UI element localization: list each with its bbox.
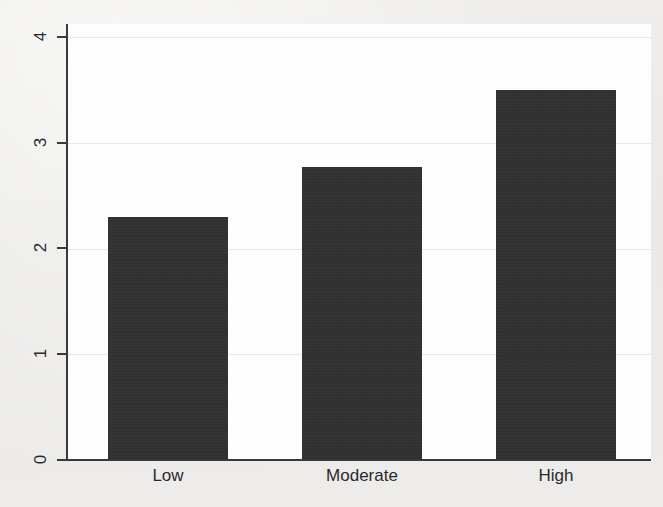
y-tick-label-2: 2 <box>32 236 49 260</box>
x-tick-label-high: High <box>496 467 616 486</box>
bar-moderate <box>302 167 422 460</box>
bar-high <box>496 90 616 460</box>
y-axis-line <box>66 24 68 461</box>
y-tick-label-0: 0 <box>32 448 49 472</box>
bar-low <box>108 217 228 460</box>
y-tick-mark-3 <box>57 142 66 144</box>
gridline-y-4 <box>67 37 651 38</box>
x-tick-label-low: Low <box>108 467 228 486</box>
y-tick-label-3: 3 <box>32 131 49 155</box>
x-tick-label-moderate: Moderate <box>302 467 422 486</box>
y-tick-mark-2 <box>57 247 66 249</box>
y-tick-mark-4 <box>57 36 66 38</box>
y-tick-label-4: 4 <box>32 25 49 49</box>
y-tick-label-1: 1 <box>32 342 49 366</box>
x-axis-line <box>66 459 651 461</box>
y-tick-mark-0 <box>57 459 66 461</box>
y-tick-mark-1 <box>57 353 66 355</box>
chart-figure: 4 3 2 1 0 Low Moderate High <box>0 0 663 507</box>
